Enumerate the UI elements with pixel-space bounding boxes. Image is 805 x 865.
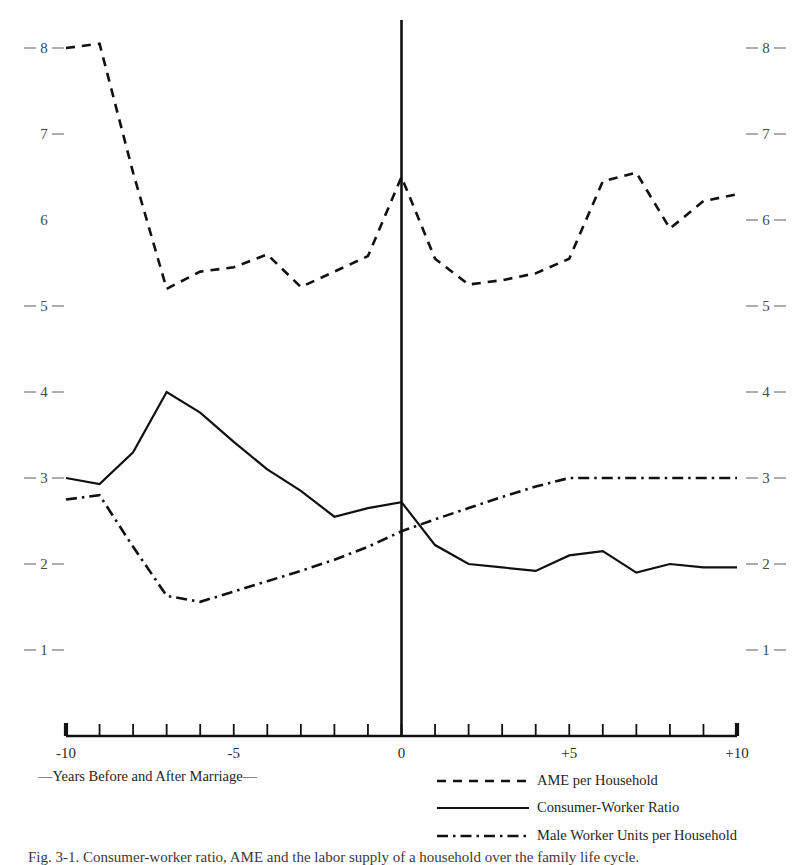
x-axis-caption: —Years Before and After Marriage— xyxy=(37,768,258,784)
figure-container: 87654321 87654321 -10-50+5+10 AME per Ho… xyxy=(0,0,805,865)
x-tick-label: +5 xyxy=(561,745,577,761)
legend-label: Male Worker Units per Household xyxy=(537,827,738,843)
y-tick-label-left: 3 xyxy=(40,470,48,486)
y-tick-label-left: 2 xyxy=(40,556,48,572)
y-tick-label-left: 6 xyxy=(40,212,48,228)
x-tick-label: +10 xyxy=(725,745,748,761)
y-axis-left-ticks: 87654321 xyxy=(24,40,64,658)
y-tick-label-right: 6 xyxy=(762,212,770,228)
y-tick-label-left: 7 xyxy=(40,126,48,142)
legend-label: AME per Household xyxy=(537,772,659,788)
y-tick-label-left: 5 xyxy=(40,298,48,314)
legend-label: Consumer-Worker Ratio xyxy=(537,799,679,815)
y-tick-label-right: 8 xyxy=(762,40,770,56)
y-axis-right-ticks: 87654321 xyxy=(746,40,786,658)
x-tick-label: 0 xyxy=(398,745,406,761)
y-tick-label-right: 7 xyxy=(762,126,770,142)
y-tick-label-left: 4 xyxy=(40,384,48,400)
figure-caption: Fig. 3-1. Consumer-worker ratio, AME and… xyxy=(28,849,639,865)
y-tick-label-right: 3 xyxy=(762,470,770,486)
x-tick-label: -10 xyxy=(56,745,76,761)
y-tick-label-left: 8 xyxy=(40,40,48,56)
y-tick-label-right: 5 xyxy=(762,298,770,314)
y-tick-label-left: 1 xyxy=(40,642,48,658)
y-tick-label-right: 4 xyxy=(762,384,770,400)
y-tick-label-right: 1 xyxy=(762,642,770,658)
line-chart: 87654321 87654321 -10-50+5+10 AME per Ho… xyxy=(0,0,805,865)
y-tick-label-right: 2 xyxy=(762,556,770,572)
chart-legend: AME per HouseholdConsumer-Worker RatioMa… xyxy=(437,772,738,843)
x-tick-label: -5 xyxy=(228,745,241,761)
